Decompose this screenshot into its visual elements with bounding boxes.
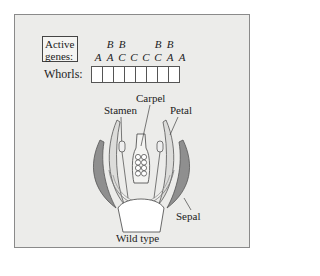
petal-label: Petal	[170, 104, 192, 116]
receptacle-shape	[118, 199, 164, 232]
stamen-label: Stamen	[104, 104, 137, 116]
petal-right-shape	[159, 120, 174, 204]
stamen-right-anther	[157, 141, 163, 152]
caption: Wild type	[116, 232, 159, 244]
stamen-left-anther	[119, 141, 125, 152]
sepal-label: Sepal	[176, 210, 200, 222]
carpel-label: Carpel	[136, 92, 165, 104]
carpel-shape	[132, 134, 149, 183]
